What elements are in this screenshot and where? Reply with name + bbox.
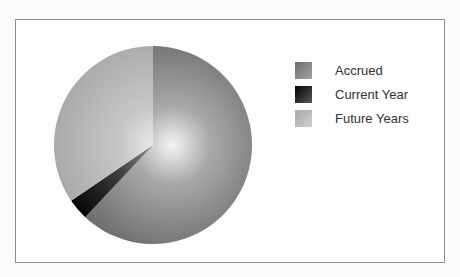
pie-chart <box>0 0 460 277</box>
legend-swatch-icon <box>295 110 312 127</box>
legend-swatch-icon <box>295 62 312 79</box>
legend-label: Future Years <box>335 110 409 127</box>
legend-swatch-icon <box>295 86 312 103</box>
legend-label: Accrued <box>335 62 383 79</box>
legend-label: Current Year <box>335 86 408 103</box>
